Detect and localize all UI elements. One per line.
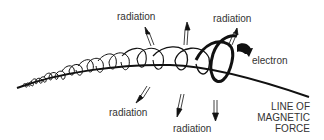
- radiation-arrow-bottom-middle: [177, 94, 184, 117]
- synchrotron-diagram: radiation radiation electron radiation r…: [0, 0, 324, 140]
- field-line-label-line3: FORCE: [230, 124, 310, 134]
- radiation-label-top-right: radiation: [213, 14, 251, 24]
- electron-spiral-path: [22, 36, 237, 87]
- magnetic-field-line: [17, 65, 309, 97]
- radiation-label-bottom-left: radiation: [109, 108, 147, 118]
- radiation-arrow-top-middle: [184, 22, 190, 45]
- radiation-label-bottom-right: radiation: [173, 124, 211, 134]
- radiation-label-top-left: radiation: [117, 12, 155, 22]
- radiation-arrow-bottom-left: [136, 86, 150, 103]
- field-line-label-line1: LINE OF: [230, 102, 310, 112]
- radiation-arrow-top-left: [145, 27, 154, 46]
- radiation-arrow-bottom-right: [213, 100, 219, 121]
- field-line-label-line2: MAGNETIC: [230, 113, 310, 123]
- electron-icon: [237, 43, 253, 57]
- electron-label: electron: [252, 56, 288, 66]
